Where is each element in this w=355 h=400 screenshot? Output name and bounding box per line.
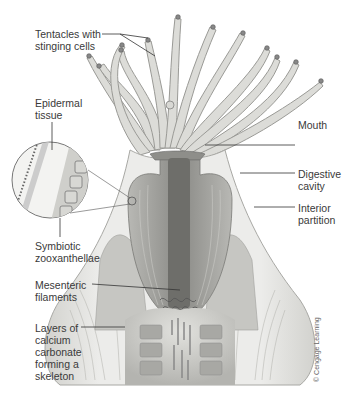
label-epidermal-tissue: Epidermal tissue (35, 97, 82, 121)
coral-polyp-diagram: Tentacles with stinging cells Epidermal … (0, 0, 355, 400)
label-mouth: Mouth (298, 119, 327, 131)
copyright-notice: © Cengage Learning (313, 317, 320, 382)
label-calcium-carbonate-layers: Layers of calcium carbonate forming a sk… (35, 322, 82, 382)
pharynx (168, 158, 190, 308)
label-symbiotic-zooxanthellae: Symbiotic zooxanthellae (35, 240, 100, 264)
label-mesenteric-filaments: Mesenteric filaments (35, 279, 86, 303)
label-digestive-cavity: Digestive cavity (298, 168, 341, 192)
mouth-knob (166, 101, 174, 109)
label-interior-partition: Interior partition (298, 202, 335, 226)
label-tentacles: Tentacles with stinging cells (35, 28, 101, 52)
tentacles (87, 18, 323, 160)
